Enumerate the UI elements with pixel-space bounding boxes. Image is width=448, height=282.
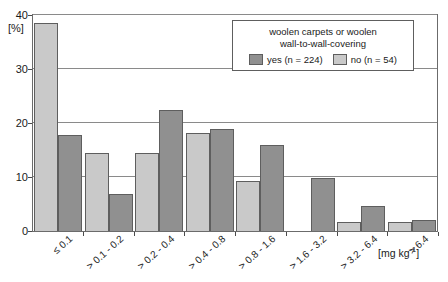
y-tick-label-30: 30 <box>4 63 28 75</box>
y-tick-mark-30 <box>28 69 32 70</box>
bar-no <box>85 153 109 231</box>
chart-figure: [%] 010203040 woolen carpets or woolen w… <box>0 0 448 282</box>
bar-yes <box>109 194 133 231</box>
bar-no <box>135 153 159 231</box>
bar-no <box>337 222 361 231</box>
bar-group <box>185 15 236 231</box>
x-tick-mark <box>438 232 439 236</box>
bar-group <box>134 15 185 231</box>
y-tick-label-0: 0 <box>4 225 28 237</box>
bar-no <box>388 222 412 231</box>
bar-yes <box>58 135 82 231</box>
legend-entry: yes (n = 224) <box>249 54 323 65</box>
y-tick-mark-20 <box>28 123 32 124</box>
x-tick-label: > 0.4 - 0.8 <box>186 233 227 271</box>
x-tick-label: > 3.2 - 6.4 <box>338 233 379 271</box>
legend-swatch <box>249 54 263 65</box>
x-tick-mark <box>235 232 236 236</box>
legend-label: no (n = 54) <box>351 54 397 65</box>
x-tick-label: > 0.8 - 1.6 <box>237 233 278 271</box>
y-tick-mark-10 <box>28 177 32 178</box>
x-axis-unit-bracket: ] <box>416 247 419 259</box>
x-tick-label: ≤ 0.1 <box>51 233 75 256</box>
bar-no <box>186 133 210 231</box>
x-tick-label: > 0.2 - 0.4 <box>135 233 176 271</box>
x-tick-label: > 0.1 - 0.2 <box>84 233 125 271</box>
x-tick-mark <box>387 232 388 236</box>
chart-legend: woolen carpets or woolen wall-to-wall-co… <box>232 20 414 71</box>
bar-yes <box>260 145 284 231</box>
bar-no <box>34 23 58 231</box>
x-axis-unit-label: [mg kg-1] <box>378 245 419 259</box>
y-axis-unit-label: [%] <box>8 22 24 34</box>
bar-no <box>236 181 260 231</box>
legend-swatch <box>333 54 347 65</box>
bar-group <box>33 15 84 231</box>
x-tick-mark <box>134 232 135 236</box>
y-tick-mark-40 <box>28 15 32 16</box>
x-tick-mark <box>286 232 287 236</box>
legend-title-line-2: wall-to-wall-covering <box>239 38 407 50</box>
x-tick-mark <box>337 232 338 236</box>
y-tick-label-40: 40 <box>4 9 28 21</box>
y-tick-label-10: 10 <box>4 171 28 183</box>
x-tick-mark <box>184 232 185 236</box>
legend-title-line-1: woolen carpets or woolen <box>239 26 407 38</box>
bar-yes <box>159 110 183 232</box>
x-tick-mark <box>83 232 84 236</box>
bar-group <box>84 15 135 231</box>
legend-entry: no (n = 54) <box>333 54 397 65</box>
x-axis-unit-text: [mg kg <box>378 247 410 259</box>
bar-yes <box>361 206 385 231</box>
x-tick-label: > 1.6 - 3.2 <box>287 233 328 271</box>
legend-entries: yes (n = 224)no (n = 54) <box>239 54 407 65</box>
legend-label: yes (n = 224) <box>267 54 323 65</box>
y-tick-label-20: 20 <box>4 117 28 129</box>
bar-yes <box>311 178 335 231</box>
bar-yes <box>210 129 234 231</box>
y-tick-mark-0 <box>28 231 32 232</box>
bar-yes <box>412 220 436 231</box>
